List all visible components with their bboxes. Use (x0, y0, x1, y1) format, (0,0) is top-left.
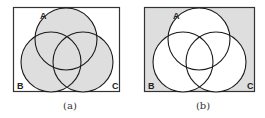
caption-b: (b) (173, 100, 233, 111)
venn-panel-a: A B C (a) (0, 0, 132, 118)
caption-a: (a) (40, 100, 100, 111)
label-a: A (173, 11, 180, 21)
label-c: C (247, 81, 254, 91)
label-b: B (148, 81, 155, 91)
venn-diagram-b: A B C (131, 0, 265, 100)
label-c: C (112, 81, 119, 91)
venn-panel-b: A B C (b) (131, 0, 265, 118)
venn-diagram-a: A B C (0, 0, 132, 100)
label-a: A (40, 11, 47, 21)
label-b: B (17, 81, 24, 91)
